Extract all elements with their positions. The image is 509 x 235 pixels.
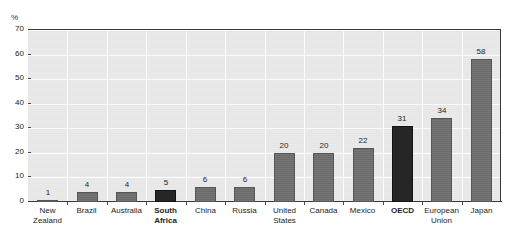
category-label-line: Africa bbox=[143, 216, 188, 226]
bar-russia bbox=[234, 187, 255, 202]
y-axis-unit-label: % bbox=[11, 13, 18, 22]
bar-japan bbox=[471, 59, 492, 202]
category-mexico: Mexico bbox=[340, 206, 385, 216]
y-tick-mark-20 bbox=[28, 152, 31, 153]
y-tick-label-20: 20 bbox=[0, 148, 24, 156]
chart-root: % 010203040506070 NewZealandBrazilAustra… bbox=[0, 0, 509, 235]
bar-value-mexico: 22 bbox=[349, 137, 377, 145]
bar-value-oecd: 31 bbox=[388, 115, 416, 123]
bar-brazil bbox=[77, 192, 98, 202]
x-tick-mark-8 bbox=[343, 202, 344, 205]
gridline-h-50 bbox=[28, 79, 500, 80]
bar-value-japan: 58 bbox=[467, 48, 495, 56]
y-tick-mark-40 bbox=[28, 103, 31, 104]
gridline-h-30 bbox=[28, 128, 500, 129]
gridline-v-4 bbox=[186, 30, 187, 201]
gridline-v-6 bbox=[265, 30, 266, 201]
gridline-h-60 bbox=[28, 55, 500, 56]
chart-title-clipped bbox=[0, 0, 509, 1]
gridline-v-7 bbox=[304, 30, 305, 201]
gridline-h-20 bbox=[28, 153, 500, 154]
gridline-v-5 bbox=[225, 30, 226, 201]
bar-value-china: 6 bbox=[191, 176, 219, 184]
y-tick-label-60: 60 bbox=[0, 50, 24, 58]
category-russia: Russia bbox=[222, 206, 267, 216]
category-european-union: EuropeanUnion bbox=[419, 206, 464, 225]
category-label-line: Japan bbox=[459, 206, 504, 216]
bar-value-new-zealand: 1 bbox=[34, 189, 62, 197]
y-tick-label-70: 70 bbox=[0, 25, 24, 33]
category-label-line: Russia bbox=[222, 206, 267, 216]
y-tick-label-0: 0 bbox=[0, 197, 24, 205]
plot-area bbox=[28, 29, 501, 201]
x-tick-mark-5 bbox=[225, 202, 226, 205]
x-tick-mark-6 bbox=[265, 202, 266, 205]
plot-texture bbox=[28, 30, 500, 201]
gridline-h-10 bbox=[28, 177, 500, 178]
y-tick-label-10: 10 bbox=[0, 172, 24, 180]
bar-value-canada: 20 bbox=[310, 142, 338, 150]
bar-value-south-africa: 5 bbox=[152, 179, 180, 187]
category-label-line: Brazil bbox=[64, 206, 109, 216]
bar-value-united-states: 20 bbox=[270, 142, 298, 150]
x-tick-mark-2 bbox=[107, 202, 108, 205]
x-tick-mark-4 bbox=[186, 202, 187, 205]
bar-south-africa bbox=[155, 190, 176, 202]
bar-canada bbox=[313, 153, 334, 202]
category-label-line: States bbox=[262, 216, 307, 226]
x-tick-mark-11 bbox=[462, 202, 463, 205]
y-tick-mark-50 bbox=[28, 78, 31, 79]
bar-china bbox=[195, 187, 216, 202]
category-label-line: Zealand bbox=[25, 216, 70, 226]
bar-value-european-union: 34 bbox=[428, 107, 456, 115]
x-tick-mark-3 bbox=[146, 202, 147, 205]
category-south-africa: SouthAfrica bbox=[143, 206, 188, 225]
y-tick-label-40: 40 bbox=[0, 99, 24, 107]
x-tick-mark-7 bbox=[304, 202, 305, 205]
bar-european-union bbox=[431, 118, 452, 202]
gridline-v-10 bbox=[422, 30, 423, 201]
category-brazil: Brazil bbox=[64, 206, 109, 216]
bar-new-zealand bbox=[37, 200, 58, 202]
category-label-line: Mexico bbox=[340, 206, 385, 216]
category-label-line: South bbox=[143, 206, 188, 216]
y-tick-label-50: 50 bbox=[0, 74, 24, 82]
x-tick-mark-10 bbox=[422, 202, 423, 205]
category-label-line: European bbox=[419, 206, 464, 216]
gridline-v-9 bbox=[383, 30, 384, 201]
gridline-v-8 bbox=[343, 30, 344, 201]
bar-value-russia: 6 bbox=[231, 176, 259, 184]
gridline-v-1 bbox=[67, 30, 68, 201]
y-tick-mark-60 bbox=[28, 54, 31, 55]
x-tick-mark-9 bbox=[383, 202, 384, 205]
gridline-v-3 bbox=[146, 30, 147, 201]
gridline-v-2 bbox=[107, 30, 108, 201]
gridline-v-11 bbox=[462, 30, 463, 201]
bar-value-australia: 4 bbox=[113, 181, 141, 189]
gridline-h-40 bbox=[28, 104, 500, 105]
category-label-line: Union bbox=[419, 216, 464, 226]
bar-oecd bbox=[392, 126, 413, 202]
bar-mexico bbox=[353, 148, 374, 202]
bar-australia bbox=[116, 192, 137, 202]
x-tick-mark-1 bbox=[67, 202, 68, 205]
y-tick-mark-30 bbox=[28, 127, 31, 128]
bar-value-brazil: 4 bbox=[73, 181, 101, 189]
y-tick-label-30: 30 bbox=[0, 123, 24, 131]
gridline-h-70 bbox=[28, 30, 500, 31]
category-japan: Japan bbox=[459, 206, 504, 216]
bar-united-states bbox=[274, 153, 295, 202]
y-tick-mark-10 bbox=[28, 176, 31, 177]
